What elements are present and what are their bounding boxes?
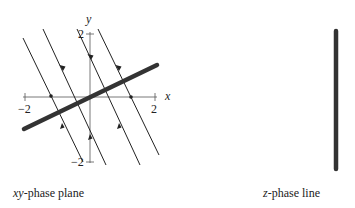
x-axis-label: x — [164, 89, 171, 103]
x-tick-label-neg2: −2 — [18, 102, 31, 116]
z-caption-rest: -phase line — [268, 186, 320, 200]
z-caption: z-phase line — [262, 186, 320, 200]
y-tick-label-neg2: −2 — [71, 155, 84, 169]
xy-phase-plane: −2 2 2 −2 x y — [18, 12, 171, 169]
y-axis-label: y — [85, 12, 92, 26]
arrow-down-icon — [88, 54, 94, 60]
arrow-down-icon — [60, 65, 66, 71]
arrow-up-icon — [60, 123, 65, 129]
crossing-dot — [129, 95, 133, 99]
xy-caption-var: xy — [12, 186, 24, 200]
xy-caption-rest: -phase plane — [24, 186, 84, 200]
trajectory-1 — [23, 38, 83, 162]
xy-caption: xy-phase plane — [12, 186, 84, 200]
phase-diagram: −2 2 2 −2 x y xy-phas — [0, 0, 355, 208]
trajectory-4 — [98, 29, 159, 155]
x-tick-label-2: 2 — [151, 102, 157, 116]
crossing-dot — [49, 94, 53, 98]
